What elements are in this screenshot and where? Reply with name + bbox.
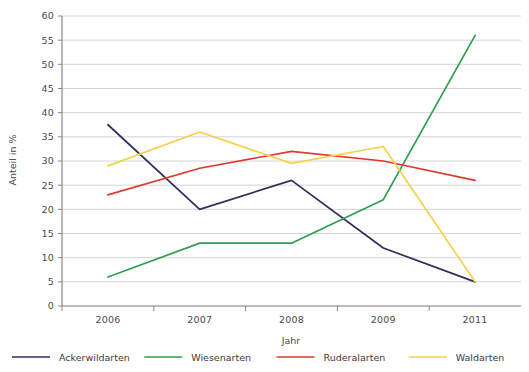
x-tick-label: 2011 — [463, 314, 488, 325]
y-tick-label: 5 — [48, 276, 54, 287]
y-tick-label: 50 — [42, 59, 55, 70]
series-line-ruderalarten — [108, 151, 475, 195]
legend-label-ruderalarten: Ruderalarten — [324, 352, 386, 363]
y-axis-title: Anteil in % — [7, 134, 18, 185]
y-tick-label: 60 — [42, 10, 55, 21]
x-tick-marks-group — [62, 306, 429, 311]
y-tick-label: 10 — [42, 252, 55, 263]
chart-canvas: 051015202530354045505560 200620072008200… — [0, 0, 529, 372]
data-series-group — [108, 35, 475, 282]
y-tick-label: 30 — [42, 155, 55, 166]
gridlines-group — [62, 16, 521, 282]
line-chart: 051015202530354045505560 200620072008200… — [0, 0, 529, 372]
legend-label-wiesenarten: Wiesenarten — [191, 352, 251, 363]
y-tick-label: 35 — [42, 131, 55, 142]
series-line-waldarten — [108, 132, 475, 282]
legend-label-ackerwildarten: Ackerwildarten — [59, 352, 130, 363]
x-tick-label: 2006 — [95, 314, 120, 325]
x-tick-label: 2009 — [371, 314, 396, 325]
y-tick-label: 15 — [42, 228, 55, 239]
series-line-ackerwildarten — [108, 125, 475, 282]
y-tick-label: 20 — [42, 204, 55, 215]
chart-legend: AckerwildartenWiesenartenRuderalartenWal… — [12, 352, 504, 363]
y-tick-label: 40 — [42, 107, 55, 118]
series-line-wiesenarten — [108, 35, 475, 277]
y-tick-labels-group: 051015202530354045505560 — [42, 10, 55, 311]
x-tick-label: 2007 — [187, 314, 212, 325]
y-tick-marks-group — [58, 16, 62, 306]
y-tick-label: 55 — [42, 35, 55, 46]
legend-label-waldarten: Waldarten — [456, 352, 505, 363]
y-tick-label: 0 — [48, 300, 54, 311]
y-tick-label: 45 — [42, 83, 55, 94]
x-tick-label: 2008 — [279, 314, 304, 325]
x-axis-title: Jahr — [281, 335, 301, 346]
y-tick-label: 25 — [42, 180, 55, 191]
x-tick-labels-group: 20062007200820092011 — [95, 314, 487, 325]
